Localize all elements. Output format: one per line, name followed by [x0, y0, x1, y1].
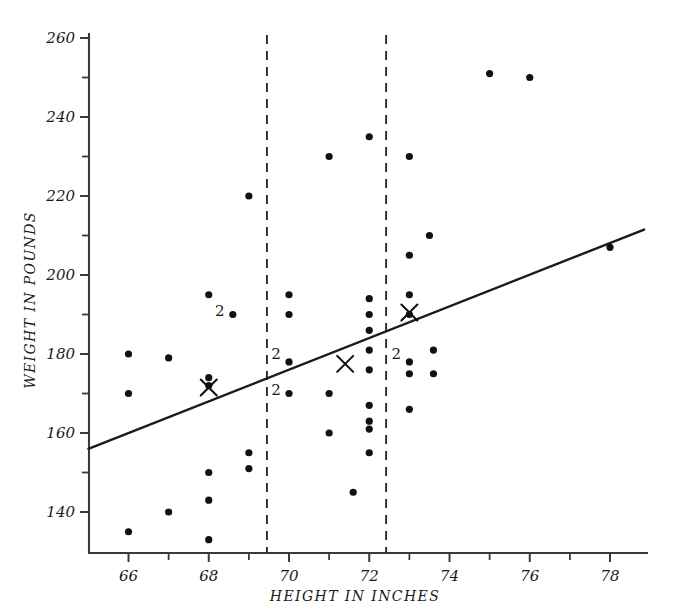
data-point [205, 536, 212, 543]
overlap-count-label: 2 [271, 381, 281, 399]
x-axis-tick-label: 74 [440, 567, 459, 585]
data-point [366, 327, 373, 334]
data-point [165, 354, 172, 361]
data-point [606, 244, 613, 251]
data-point [406, 406, 413, 413]
data-point [366, 449, 373, 456]
data-point [229, 311, 236, 318]
x-axis-title: HEIGHT IN INCHES [269, 588, 440, 604]
data-point [486, 70, 493, 77]
data-point [366, 425, 373, 432]
group-mean-x-marker [401, 305, 417, 321]
data-point [326, 429, 333, 436]
x-axis-tick-label: 66 [119, 567, 139, 585]
overlap-count-label: 2 [392, 345, 402, 363]
data-point [366, 133, 373, 140]
x-axis-tick-label: 68 [199, 567, 218, 585]
data-point [326, 390, 333, 397]
data-point [406, 358, 413, 365]
data-point [526, 74, 533, 81]
regression-line [88, 230, 644, 449]
data-point [430, 346, 437, 353]
data-point [245, 192, 252, 199]
data-point [205, 374, 212, 381]
overlap-count-label: 2 [271, 345, 281, 363]
data-point [285, 390, 292, 397]
group-mean-x-marker [337, 356, 353, 372]
data-point [285, 291, 292, 298]
data-point [350, 489, 357, 496]
data-point [125, 350, 132, 357]
data-point [205, 469, 212, 476]
data-point [406, 252, 413, 259]
data-point [326, 153, 333, 160]
data-point [366, 366, 373, 373]
group-mean-x-marker [201, 380, 217, 396]
data-point [125, 528, 132, 535]
data-point [285, 311, 292, 318]
data-point [245, 465, 252, 472]
data-point [285, 358, 292, 365]
data-point [205, 291, 212, 298]
data-point [165, 508, 172, 515]
x-axis-tick-label: 70 [279, 567, 299, 585]
y-axis-tick-label: 240 [45, 108, 75, 126]
scatter-plot-figure: 14016018020022024026066687072747678HEIGH… [0, 0, 691, 616]
x-axis-tick-label: 78 [600, 567, 619, 585]
x-axis-tick-label: 76 [520, 567, 540, 585]
data-point [366, 311, 373, 318]
data-point [366, 418, 373, 425]
y-axis-tick-label: 180 [46, 345, 75, 363]
data-point [406, 153, 413, 160]
y-axis-tick-label: 160 [46, 424, 75, 442]
data-point [366, 402, 373, 409]
data-point [406, 370, 413, 377]
y-axis-tick-label: 220 [45, 187, 75, 205]
axis-spine [89, 33, 648, 553]
x-axis-tick-label: 72 [360, 567, 379, 585]
y-axis-tick-label: 200 [45, 266, 75, 284]
data-point [125, 390, 132, 397]
y-axis-tick-label: 140 [46, 503, 75, 521]
data-point [430, 370, 437, 377]
plot-canvas: 14016018020022024026066687072747678HEIGH… [0, 0, 691, 616]
data-point [426, 232, 433, 239]
data-point [366, 295, 373, 302]
y-axis-tick-label: 260 [45, 29, 75, 47]
data-point [366, 346, 373, 353]
y-axis-title: WEIGHT IN POUNDS [22, 211, 38, 389]
overlap-count-label: 2 [215, 302, 225, 320]
data-point [205, 497, 212, 504]
data-point [245, 449, 252, 456]
data-point [406, 291, 413, 298]
